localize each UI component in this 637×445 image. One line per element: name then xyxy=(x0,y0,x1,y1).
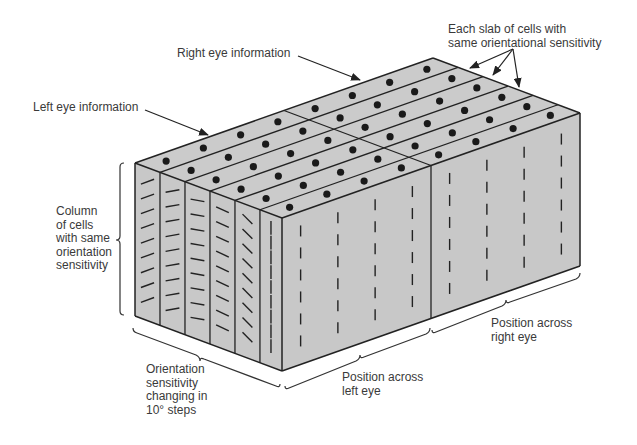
cell-dot xyxy=(188,167,195,174)
cell-dot xyxy=(237,186,244,193)
cell-dot xyxy=(386,79,393,86)
slab-arrow-3 xyxy=(513,49,519,87)
cell-dot xyxy=(498,94,505,101)
cell-dot xyxy=(262,195,269,202)
cell-dot xyxy=(411,88,418,95)
cell-dot xyxy=(237,131,244,138)
cell-dot xyxy=(473,84,480,91)
cell-dot xyxy=(287,150,294,157)
cell-dot xyxy=(399,111,406,118)
cell-dot xyxy=(225,154,232,161)
cell-dot xyxy=(435,151,442,158)
cell-dot xyxy=(312,105,319,112)
cell-dot xyxy=(448,75,455,82)
cell-dot xyxy=(374,101,381,108)
cell-dot xyxy=(509,125,516,132)
cell-dot xyxy=(486,116,493,123)
cell-dot xyxy=(213,176,220,183)
cell-dot xyxy=(323,191,330,198)
left-eye-position-label: Position across left eye xyxy=(342,371,423,398)
cell-dot xyxy=(423,66,430,73)
left-eye-arrow xyxy=(145,110,208,135)
cell-dot xyxy=(300,182,307,189)
column-brace xyxy=(116,163,124,315)
cell-dot xyxy=(523,103,530,110)
slab-label: Each slab of cells with same orientation… xyxy=(448,22,601,50)
right-eye-information-label: Right eye information xyxy=(177,46,290,60)
cell-dot xyxy=(472,138,479,145)
cell-dot xyxy=(163,158,170,165)
cell-dot xyxy=(547,112,554,119)
orientation-steps-label: Orientation sensitivity changing in 10° … xyxy=(146,363,207,417)
cell-dot xyxy=(262,141,269,148)
diagram-stage: Right eye information Left eye informati… xyxy=(0,0,637,445)
slab-arrow-1 xyxy=(470,49,513,68)
cell-dot xyxy=(312,159,319,166)
cell-dot xyxy=(361,177,368,184)
cell-dot xyxy=(424,120,431,127)
cell-dot xyxy=(386,133,393,140)
cell-dot xyxy=(349,92,356,99)
cell-dot xyxy=(299,127,306,134)
cell-dot xyxy=(324,137,331,144)
cell-dot xyxy=(436,97,443,104)
cell-dot xyxy=(349,146,356,153)
column-label: Column of cells with same orientation se… xyxy=(56,205,112,273)
cell-dot xyxy=(275,172,282,179)
cell-dot xyxy=(398,164,405,171)
cell-dot xyxy=(411,142,418,149)
right-eye-position-label: Position across right eye xyxy=(491,317,572,344)
cell-dot xyxy=(461,107,468,114)
left-eye-information-label: Left eye information xyxy=(33,100,138,114)
cell-dot xyxy=(449,129,456,136)
cell-dot xyxy=(250,163,257,170)
cell-dot xyxy=(337,114,344,121)
cell-dot xyxy=(274,118,281,125)
cell-dot xyxy=(200,144,207,151)
cell-dot xyxy=(362,124,369,131)
right-eye-arrow xyxy=(298,56,360,80)
cell-dot xyxy=(286,204,293,211)
cell-dot xyxy=(374,156,381,163)
cell-dot xyxy=(337,169,344,176)
